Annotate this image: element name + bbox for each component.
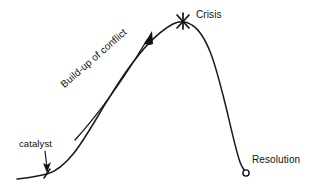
resolution-circle-marker bbox=[243, 170, 249, 176]
crisis-x-marker bbox=[177, 13, 189, 29]
crisis-label: Crisis bbox=[196, 9, 222, 20]
story-arc-curve bbox=[17, 22, 246, 179]
buildup-arrowhead bbox=[144, 31, 153, 45]
buildup-arrow-shaft bbox=[75, 40, 147, 140]
catalyst-label: catalyst bbox=[19, 138, 52, 149]
resolution-label: Resolution bbox=[252, 154, 300, 165]
narrative-arc-diagram: catalyst Build-up of conflict Crisis Res… bbox=[0, 0, 310, 191]
